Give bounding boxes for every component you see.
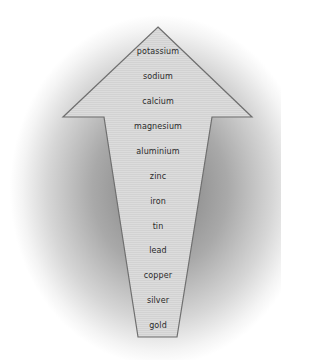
metal-label-aluminium: aluminium bbox=[98, 147, 218, 156]
metal-label-calcium: calcium bbox=[98, 97, 218, 106]
metal-label-gold: gold bbox=[98, 321, 218, 330]
metal-label-sodium: sodium bbox=[98, 72, 218, 81]
metal-label-silver: silver bbox=[98, 296, 218, 305]
metal-label-iron: iron bbox=[98, 197, 218, 206]
metal-label-lead: lead bbox=[98, 246, 218, 255]
metal-label-copper: copper bbox=[98, 271, 218, 280]
metal-label-magnesium: magnesium bbox=[98, 122, 218, 131]
metal-label-potassium: potassium bbox=[98, 47, 218, 56]
metal-label-zinc: zinc bbox=[98, 172, 218, 181]
metal-label-tin: tin bbox=[98, 222, 218, 231]
